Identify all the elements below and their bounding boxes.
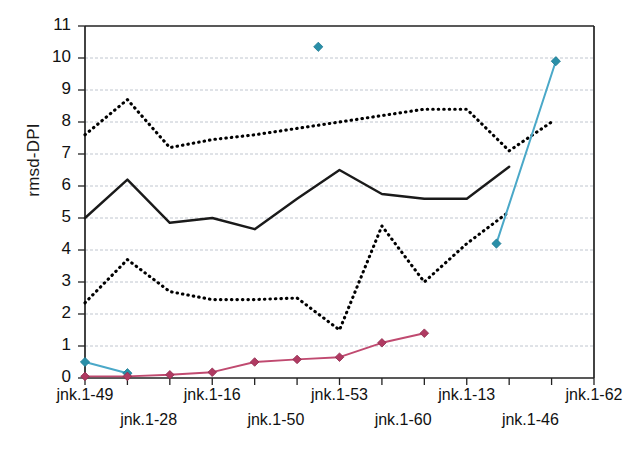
plot-frame bbox=[85, 26, 594, 378]
x-tick-label: jnk.1-16 bbox=[157, 386, 267, 404]
x-tick-label: jnk.1-46 bbox=[475, 411, 585, 429]
gridlines bbox=[85, 58, 594, 346]
x-axis-tick-marks bbox=[85, 378, 594, 385]
x-tick-label: jnk.1-50 bbox=[221, 411, 331, 429]
x-tick-label: jnk.1-53 bbox=[285, 386, 395, 404]
x-tick-label: jnk.1-13 bbox=[412, 386, 522, 404]
chart-figure: rmsd-DPI 01234567891011 jnk.1-49jnk.1-16… bbox=[0, 0, 637, 452]
x-tick-label: jnk.1-49 bbox=[30, 386, 140, 404]
plot-area bbox=[0, 0, 637, 452]
x-tick-label: jnk.1-28 bbox=[94, 411, 204, 429]
y-axis-tick-marks bbox=[78, 26, 85, 378]
data-series-group bbox=[80, 42, 560, 381]
x-tick-label: jnk.1-60 bbox=[348, 411, 458, 429]
x-tick-label: jnk.1-62 bbox=[539, 386, 637, 404]
